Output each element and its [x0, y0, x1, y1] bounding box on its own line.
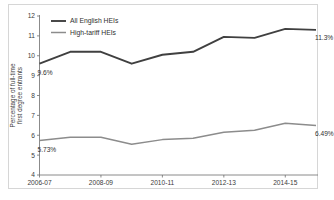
data-point-label: 9.6% — [38, 69, 53, 76]
x-tick-label: 2014-15 — [273, 179, 298, 186]
y-tick-label: 11 — [28, 32, 35, 39]
y-tick-label: 6 — [31, 132, 35, 139]
data-point-label: 6.49% — [315, 130, 334, 137]
series-line-1 — [40, 123, 317, 144]
y-tick-label: 12 — [28, 12, 36, 19]
legend-label-0: All English HEIs — [70, 17, 119, 25]
y-tick-label: 7 — [31, 112, 35, 119]
chart-figure: Percentage of full-timefirst degree entr… — [0, 0, 334, 200]
y-axis-title: Percentage of full-timefirst degree entr… — [9, 63, 24, 127]
series-lines — [40, 29, 317, 144]
y-tick-label: 5 — [31, 152, 35, 159]
x-tick-label: 2010-11 — [151, 179, 175, 186]
x-axis-ticks: 2006-072008-092010-112012-132014-15 — [27, 175, 297, 186]
line-chart: Percentage of full-timefirst degree entr… — [0, 0, 334, 200]
x-tick-label: 2008-09 — [89, 179, 114, 186]
y-tick-label: 10 — [28, 52, 36, 59]
y-tick-label: 4 — [31, 171, 35, 178]
axis-spines — [40, 15, 319, 175]
x-tick-label: 2012-13 — [212, 179, 237, 186]
data-point-label: 5.73% — [38, 146, 57, 153]
chart-legend: All English HEIsHigh-tariff HEIs — [51, 17, 119, 37]
y-axis-ticks: 456789101112 — [28, 12, 40, 178]
legend-label-1: High-tariff HEIs — [70, 29, 117, 37]
x-tick-label: 2006-07 — [27, 179, 52, 186]
y-axis-title-line: first degree entrants — [16, 67, 24, 124]
y-tick-label: 9 — [31, 72, 35, 79]
data-point-label: 11.3% — [315, 34, 333, 41]
y-tick-label: 8 — [31, 92, 35, 99]
